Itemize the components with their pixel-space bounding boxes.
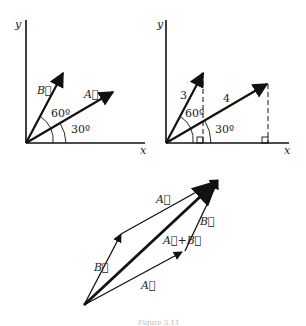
y-axis-label: y (156, 18, 164, 31)
panel-left: y x B⃗ A⃗ 60º 30º (14, 18, 147, 157)
figure-caption: Figure 3.11 (138, 319, 179, 326)
length-b-label: 3 (180, 89, 187, 102)
vector-a-top-label: A⃗ (155, 193, 171, 206)
angle-b-label: 60º (185, 107, 204, 120)
vector-b-right-label: B⃗ (199, 215, 215, 228)
right-angle-mark-a (262, 137, 268, 143)
panel-right: y x 3 4 60º 30º (156, 18, 291, 157)
x-axis-label: x (284, 144, 291, 157)
angle-b-label: 60º (51, 107, 70, 120)
angle-arc-30 (205, 121, 211, 143)
vector-a-label: A⃗ (83, 88, 99, 101)
panel-bottom-parallelogram: A⃗ B⃗ A⃗+B⃗ B⃗ A⃗ (84, 180, 218, 305)
resultant-label: A⃗+B⃗ (162, 234, 201, 247)
vector-a-bottom-label: A⃗ (140, 279, 156, 292)
vector-addition-figure: y x B⃗ A⃗ 60º 30º y x 3 4 60º 30º A⃗ (0, 0, 306, 326)
x-axis-label: x (140, 144, 147, 157)
vector-b-label: B⃗ (36, 84, 52, 97)
right-angle-mark-b (197, 137, 203, 143)
angle-arc-30 (60, 123, 66, 143)
y-axis-label: y (14, 18, 22, 31)
vector-b-left-label: B⃗ (93, 261, 109, 274)
angle-a-label: 30º (215, 123, 234, 136)
length-a-label: 4 (223, 92, 230, 105)
angle-a-label: 30º (71, 123, 90, 136)
